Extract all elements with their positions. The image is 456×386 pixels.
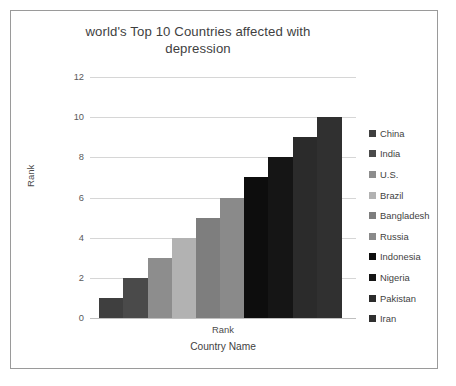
x-axis-title: Country Name (90, 341, 356, 352)
bar-india (123, 278, 148, 318)
bar-pakistan (293, 137, 318, 318)
y-axis-tick-12: 12 (51, 72, 84, 82)
legend-label: Indonesia (380, 251, 421, 262)
y-axis-tick-2: 2 (51, 273, 84, 283)
legend-item-pakistan[interactable]: Pakistan (369, 288, 435, 309)
legend-swatch-icon (369, 150, 376, 157)
bar-russia (220, 198, 245, 319)
bar-u-s (148, 258, 173, 318)
x-axis-line (90, 318, 356, 319)
bar-brazil (172, 238, 197, 318)
legend-item-u-s[interactable]: U.S. (369, 164, 435, 185)
legend-swatch-icon (369, 171, 376, 178)
legend-swatch-icon (369, 315, 376, 322)
legend-label: Brazil (380, 190, 403, 201)
legend-item-bangladesh[interactable]: Bangladesh (369, 205, 435, 226)
legend-swatch-icon (369, 233, 376, 240)
legend-label: India (380, 148, 400, 159)
legend-swatch-icon (369, 192, 376, 199)
legend-item-iran[interactable]: Iran (369, 308, 435, 329)
legend: ChinaIndiaU.S.BrazilBangladeshRussiaIndo… (369, 123, 435, 329)
legend-swatch-icon (369, 130, 376, 137)
bar-series (90, 77, 356, 318)
y-axis-tick-labels: 121086420 (51, 77, 84, 319)
legend-swatch-icon (369, 253, 376, 260)
legend-item-china[interactable]: China (369, 123, 435, 144)
plot-area (90, 77, 356, 319)
legend-item-russia[interactable]: Russia (369, 226, 435, 247)
bar-iran (317, 117, 342, 318)
legend-swatch-icon (369, 274, 376, 281)
y-axis-tick-4: 4 (51, 233, 84, 243)
legend-item-india[interactable]: India (369, 144, 435, 165)
y-axis-tick-0: 0 (51, 313, 84, 323)
y-axis-tick-6: 6 (51, 193, 84, 203)
legend-label: Nigeria (380, 272, 410, 283)
chart-title: world's Top 10 Countries affected with d… (63, 23, 333, 57)
legend-swatch-icon (369, 295, 376, 302)
y-axis-title: Rank (25, 165, 36, 187)
y-axis-tick-8: 8 (51, 152, 84, 162)
bar-china (99, 298, 124, 318)
legend-label: China (380, 128, 405, 139)
legend-swatch-icon (369, 212, 376, 219)
legend-label: Bangladesh (380, 210, 430, 221)
bar-bangladesh (196, 218, 221, 318)
legend-label: Pakistan (380, 293, 416, 304)
x-axis-category-label: Rank (90, 324, 356, 335)
legend-label: Iran (380, 313, 396, 324)
y-axis-tick-10: 10 (51, 112, 84, 122)
legend-item-indonesia[interactable]: Indonesia (369, 247, 435, 268)
chart-frame: world's Top 10 Countries affected with d… (10, 10, 438, 369)
bar-indonesia (244, 177, 269, 318)
legend-item-nigeria[interactable]: Nigeria (369, 267, 435, 288)
legend-label: U.S. (380, 169, 398, 180)
bar-nigeria (268, 157, 293, 318)
legend-label: Russia (380, 231, 409, 242)
legend-item-brazil[interactable]: Brazil (369, 185, 435, 206)
